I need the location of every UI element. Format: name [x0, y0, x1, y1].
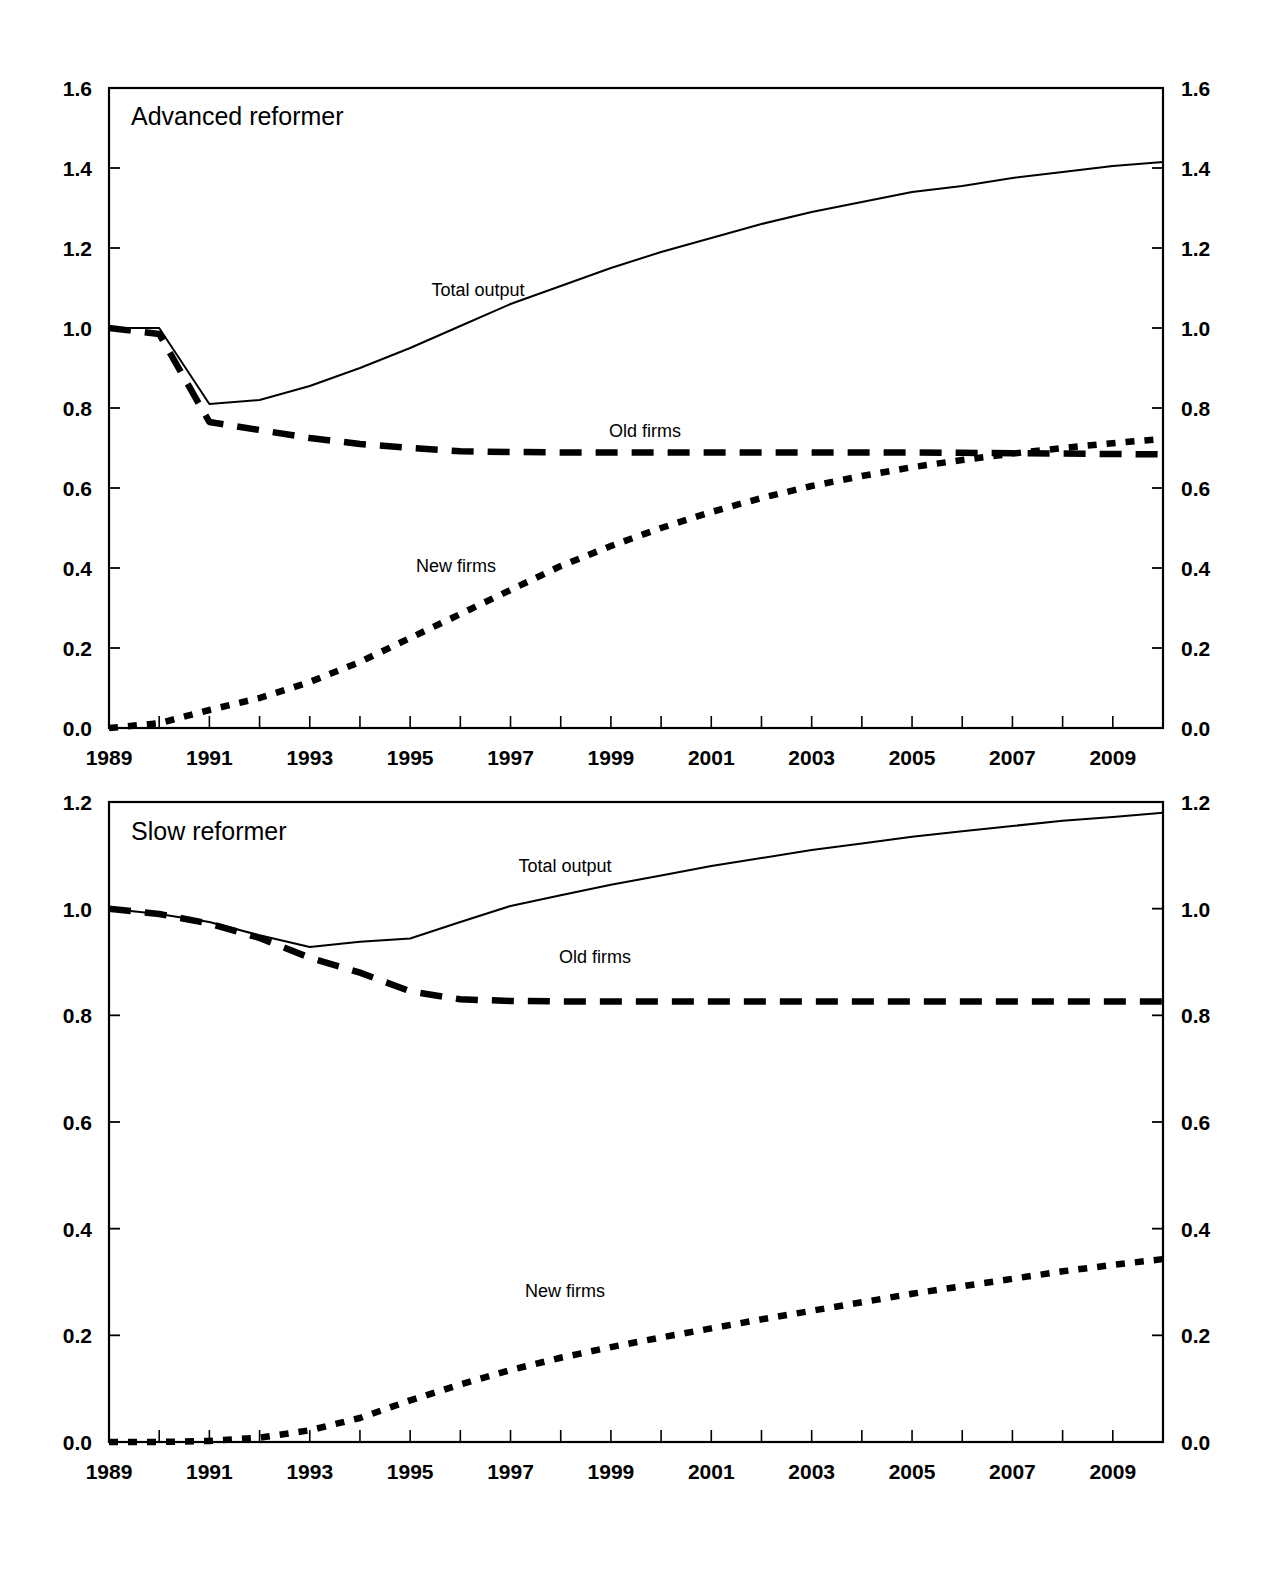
y-tick-label-right: 1.2 — [1181, 791, 1210, 814]
annotation-total-output: Total output — [431, 280, 524, 300]
y-tick-label-left: 0.8 — [63, 1004, 93, 1027]
x-tick-label: 2003 — [788, 1460, 835, 1483]
y-tick-label-left: 1.0 — [63, 898, 92, 921]
data-series-group — [109, 813, 1163, 1442]
y-tick-label-left: 1.0 — [63, 317, 92, 340]
x-tick-label: 1991 — [186, 1460, 233, 1483]
x-tick-label: 1993 — [286, 1460, 333, 1483]
y-tick-label-left: 1.6 — [63, 77, 92, 100]
x-tick-label: 2009 — [1089, 1460, 1136, 1483]
x-tick-label: 2009 — [1089, 746, 1136, 769]
y-tick-label-left: 0.6 — [63, 1111, 92, 1134]
y-tick-label-left: 1.2 — [63, 237, 92, 260]
series-line-old-firms — [109, 909, 1163, 1002]
annotation-new-firms: New firms — [416, 556, 496, 576]
y-tick-label-right: 0.6 — [1181, 477, 1210, 500]
x-tick-label: 2007 — [989, 746, 1036, 769]
y-tick-label-left: 0.6 — [63, 477, 92, 500]
x-tick-label: 1989 — [86, 746, 133, 769]
annotation-old-firms: Old firms — [559, 947, 631, 967]
x-tick-label: 1993 — [286, 746, 333, 769]
axis-tick-labels: 1.21.21.01.00.80.80.60.60.40.40.20.20.00… — [63, 791, 1211, 1483]
annotation-total-output: Total output — [518, 856, 611, 876]
y-tick-label-left: 0.4 — [63, 557, 93, 580]
y-tick-label-right: 0.0 — [1181, 717, 1210, 740]
chart-panel-advanced-reformer: 1.61.61.41.41.21.21.01.00.80.80.60.60.40… — [0, 0, 1272, 790]
y-tick-label-left: 0.4 — [63, 1218, 93, 1241]
annotation-new-firms: New firms — [525, 1281, 605, 1301]
x-tick-label: 2005 — [889, 746, 936, 769]
y-tick-label-left: 0.0 — [63, 1431, 92, 1454]
panel-title-advanced-reformer: Advanced reformer — [131, 102, 344, 130]
y-tick-label-left: 0.2 — [63, 637, 92, 660]
y-tick-label-right: 0.8 — [1181, 397, 1211, 420]
plot-frame — [109, 88, 1163, 728]
slow-reformer-plot: 1.21.21.01.00.80.80.60.60.40.40.20.20.00… — [0, 790, 1272, 1589]
advanced-reformer-plot: 1.61.61.41.41.21.21.01.00.80.80.60.60.40… — [0, 0, 1272, 790]
y-tick-label-right: 0.2 — [1181, 1324, 1210, 1347]
y-tick-label-left: 1.2 — [63, 791, 92, 814]
annotation-old-firms: Old firms — [609, 421, 681, 441]
y-tick-label-right: 1.0 — [1181, 317, 1210, 340]
y-tick-label-right: 0.4 — [1181, 1218, 1211, 1241]
plot-frame — [109, 802, 1163, 1442]
panel-title-slow-reformer: Slow reformer — [131, 817, 287, 845]
chart-panel-slow-reformer: 1.21.21.01.00.80.80.60.60.40.40.20.20.00… — [0, 790, 1272, 1589]
series-line-total-output — [109, 162, 1163, 404]
x-tick-label: 1999 — [588, 746, 635, 769]
y-tick-label-right: 0.8 — [1181, 1004, 1211, 1027]
x-tick-label: 1997 — [487, 746, 534, 769]
y-tick-label-left: 0.2 — [63, 1324, 92, 1347]
x-tick-label: 2003 — [788, 746, 835, 769]
x-tick-label: 1999 — [588, 1460, 635, 1483]
y-tick-label-right: 0.6 — [1181, 1111, 1210, 1134]
y-tick-label-left: 0.0 — [63, 717, 92, 740]
x-tick-label: 2001 — [688, 1460, 735, 1483]
y-tick-label-left: 1.4 — [63, 157, 93, 180]
x-tick-label: 1991 — [186, 746, 233, 769]
x-tick-label: 2005 — [889, 1460, 936, 1483]
data-series-group — [109, 162, 1163, 728]
x-tick-label: 1995 — [387, 746, 434, 769]
x-tick-label: 1995 — [387, 1460, 434, 1483]
series-line-new-firms — [109, 1259, 1163, 1442]
axis-ticks — [109, 909, 1163, 1442]
y-tick-label-right: 1.4 — [1181, 157, 1211, 180]
x-tick-label: 2001 — [688, 746, 735, 769]
x-tick-label: 1989 — [86, 1460, 133, 1483]
y-tick-label-right: 0.2 — [1181, 637, 1210, 660]
x-tick-label: 1997 — [487, 1460, 534, 1483]
series-line-new-firms — [109, 439, 1163, 728]
x-tick-label: 2007 — [989, 1460, 1036, 1483]
y-tick-label-left: 0.8 — [63, 397, 93, 420]
y-tick-label-right: 0.0 — [1181, 1431, 1210, 1454]
y-tick-label-right: 1.2 — [1181, 237, 1210, 260]
y-tick-label-right: 1.6 — [1181, 77, 1210, 100]
y-tick-label-right: 1.0 — [1181, 898, 1210, 921]
axis-ticks — [109, 168, 1163, 728]
y-tick-label-right: 0.4 — [1181, 557, 1211, 580]
